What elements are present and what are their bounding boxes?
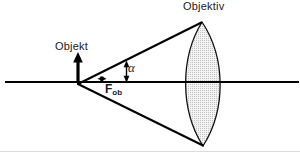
upper-ray	[78, 23, 202, 85]
objective-label: Objektiv	[183, 1, 224, 12]
focal-point-label: Fob	[105, 83, 122, 95]
figure-canvas: Objektiv Objekt Fob α	[0, 0, 300, 154]
object-arrow	[73, 52, 83, 82]
object-label: Objekt	[55, 41, 88, 52]
optics-ray-diagram	[0, 0, 300, 154]
lower-ray	[78, 84, 203, 146]
focal-point-subscript: ob	[112, 88, 122, 97]
angle-alpha-label: α	[128, 61, 135, 74]
focal-point-marker	[98, 76, 107, 81]
objective-lens	[186, 22, 221, 146]
